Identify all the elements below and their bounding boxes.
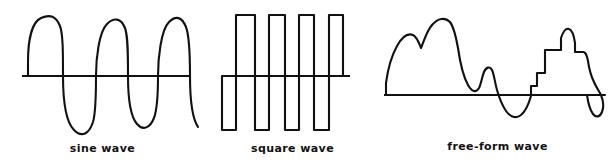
square-wave-caption: square wave — [205, 142, 380, 155]
square-wave-graphic — [205, 0, 380, 140]
square-wave-panel: square wave — [205, 0, 380, 168]
free-form-wave-panel: free-form wave — [380, 0, 615, 168]
free-form-wave-caption: free-form wave — [380, 140, 615, 153]
free-form-wave-path — [386, 19, 605, 117]
sine-wave-caption: sine wave — [0, 142, 205, 155]
square-wave-path — [222, 15, 343, 130]
sine-wave-graphic — [0, 0, 205, 140]
waveform-figure: sine wave square wave free-form wave — [0, 0, 615, 168]
sine-wave-panel: sine wave — [0, 0, 205, 168]
free-form-wave-graphic — [380, 0, 615, 140]
